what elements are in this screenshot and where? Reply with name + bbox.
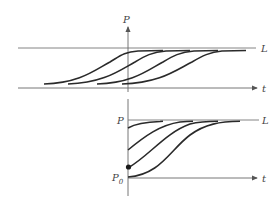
top-panel: P L t: [18, 14, 268, 94]
p0-label-sub: 0: [119, 178, 124, 186]
bottom-panel: P L t P0: [111, 99, 269, 196]
initial-point-dot: [126, 164, 131, 169]
bottom-t-label: t: [262, 173, 267, 184]
bottom-curve-2: [128, 121, 193, 150]
top-p-label: P: [122, 14, 130, 25]
p0-label: P0: [111, 172, 124, 186]
top-t-label: t: [262, 83, 267, 94]
logistic-diagram: P L t P L t P0: [0, 0, 279, 199]
top-l-label: L: [260, 43, 268, 54]
bottom-curve-4: [128, 121, 240, 177]
bottom-curve-3: [128, 121, 218, 168]
bottom-p-label: P: [116, 115, 124, 126]
bottom-l-label: L: [261, 115, 269, 126]
top-curve-4: [122, 51, 246, 85]
bottom-curve-1: [128, 121, 163, 128]
